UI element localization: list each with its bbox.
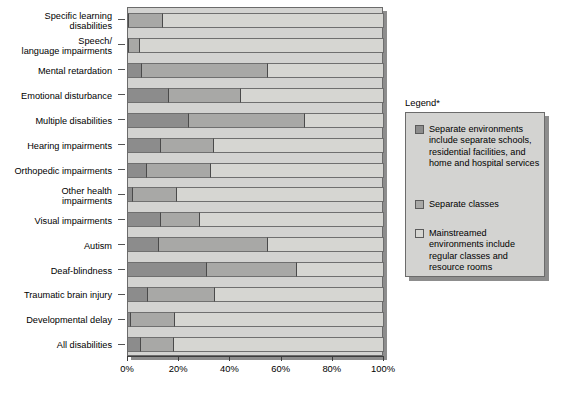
chart-container: Specific learning disabilitiesSpeech/ la… [0, 0, 576, 400]
bar-segment [214, 138, 384, 153]
category-tick [118, 219, 125, 220]
category-tick [118, 144, 125, 145]
bar-segment [128, 337, 141, 352]
category-label: All disabilities [0, 340, 112, 350]
bar-row [128, 312, 382, 327]
category-label: Traumatic brain injury [0, 290, 112, 300]
category-tick [118, 269, 125, 270]
category-label: Visual impairments [0, 216, 112, 226]
bar-segment [163, 13, 384, 28]
bar-segment [268, 63, 384, 78]
category-axis-labels: Specific learning disabilitiesSpeech/ la… [0, 8, 115, 356]
category-tick [118, 94, 125, 95]
category-label: Multiple disabilities [0, 116, 112, 126]
legend-swatch-icon [415, 125, 424, 134]
bar-segment [133, 187, 177, 202]
legend-box: Separate environments include separate s… [405, 112, 545, 277]
x-axis-tick [383, 356, 384, 361]
category-label: Speech/ language impairments [0, 36, 112, 57]
bar-segment [189, 113, 304, 128]
bar-row [128, 262, 382, 277]
bar-segment [241, 88, 384, 103]
bar-segment [141, 337, 174, 352]
bar-segment [161, 212, 199, 227]
bar-segment [128, 287, 148, 302]
bar-row [128, 187, 382, 202]
bar-segment [268, 237, 384, 252]
category-tick [118, 119, 125, 120]
bar-segment [128, 113, 189, 128]
x-axis-tick [332, 356, 333, 361]
bar-row [128, 287, 382, 302]
bar-segment [142, 63, 267, 78]
bar-row [128, 337, 382, 352]
bar-row [128, 38, 382, 53]
category-label: Hearing impairments [0, 141, 112, 151]
bar-segment [128, 262, 207, 277]
bar-row [128, 212, 382, 227]
bar-segment [140, 38, 384, 53]
category-tick [118, 19, 125, 20]
bar-row [128, 63, 382, 78]
category-label: Developmental delay [0, 315, 112, 325]
bar-segment [161, 138, 213, 153]
category-label: Emotional disturbance [0, 91, 112, 101]
legend-swatch-icon [415, 200, 424, 209]
legend-label: Separate classes [429, 199, 499, 210]
bar-segment [128, 88, 169, 103]
bar-row [128, 237, 382, 252]
category-tick [118, 69, 125, 70]
bar-segment [131, 312, 176, 327]
bar-segment [128, 163, 147, 178]
category-label: Orthopedic impairments [0, 166, 112, 176]
category-label: Autism [0, 241, 112, 251]
x-axis-tick-label: 60% [259, 363, 303, 374]
bar-segment [129, 38, 139, 53]
bar-segment [169, 88, 241, 103]
x-axis-tick-label: 0% [105, 363, 149, 374]
x-axis-tick-label: 40% [207, 363, 251, 374]
bar-row [128, 138, 382, 153]
bar-row [128, 13, 382, 28]
bar-segment [128, 138, 161, 153]
x-axis-tick [127, 356, 128, 361]
bar-segment [128, 237, 159, 252]
x-axis-tick [178, 356, 179, 361]
bar-segment [148, 287, 215, 302]
category-tick [118, 169, 125, 170]
category-label: Specific learning disabilities [0, 11, 112, 32]
legend-item: Separate environments include separate s… [415, 124, 541, 169]
bar-segment [207, 262, 297, 277]
bar-segment [147, 163, 211, 178]
category-tick [118, 244, 125, 245]
bar-segment [128, 212, 161, 227]
bar-segment [215, 287, 384, 302]
category-label: Mental retardation [0, 66, 112, 76]
bar-segment [200, 212, 384, 227]
x-axis-tick-label: 80% [310, 363, 354, 374]
category-tick [118, 194, 125, 195]
bar-segment [297, 262, 384, 277]
category-tick [118, 44, 125, 45]
legend-title: Legend* [405, 97, 440, 108]
bar-segment [128, 63, 142, 78]
bar-segment [175, 312, 384, 327]
x-axis-tick [229, 356, 230, 361]
legend-item: Separate classes [415, 199, 541, 210]
bar-segment [174, 337, 384, 352]
category-label: Other health impairments [0, 186, 112, 207]
legend-swatch-icon [415, 229, 424, 238]
bar-segment [177, 187, 384, 202]
legend-label: Mainstreamed environments include regula… [429, 228, 515, 273]
category-tick [118, 319, 125, 320]
x-axis-line [127, 356, 384, 357]
bar-row [128, 113, 382, 128]
x-axis-tick-label: 20% [156, 363, 200, 374]
bar-row [128, 163, 382, 178]
bar-segment [211, 163, 384, 178]
category-label: Deaf-blindness [0, 266, 112, 276]
bar-segment [159, 237, 268, 252]
plot-area [127, 7, 383, 356]
legend-item: Mainstreamed environments include regula… [415, 228, 541, 273]
bar-row [128, 88, 382, 103]
